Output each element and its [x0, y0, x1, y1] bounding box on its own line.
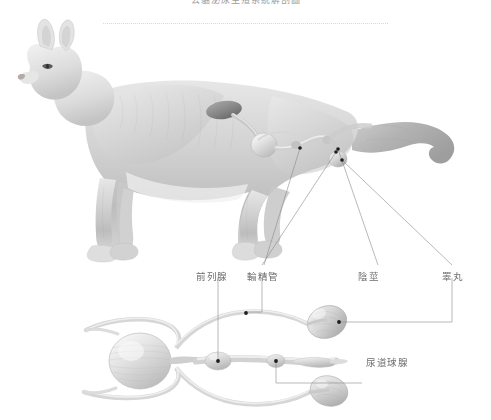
anchor-vas-detail: [244, 311, 248, 315]
anatomy-figure: 公貓泌尿生殖系統解剖圖: [0, 0, 491, 420]
illustration-canvas: [0, 0, 491, 420]
detail-ureter-upper: [86, 329, 118, 334]
label-penis: 陰莖: [358, 269, 379, 283]
anchor-prostate: [298, 146, 302, 150]
cat-front-leg-far: [117, 182, 136, 250]
anchor-testis: [340, 158, 344, 162]
anchor-penis: [336, 147, 340, 151]
organs-detail-illustration: [84, 301, 351, 411]
leader-vas-detail: [246, 278, 262, 312]
leader-testis-detail: [340, 278, 452, 322]
leader-penis: [338, 149, 378, 265]
detail-bladder-highlight: [118, 341, 144, 361]
label-bulbourethral-gland: 尿道球腺: [366, 355, 408, 369]
detail-testis-lower-highlight: [316, 380, 328, 389]
detail-bladder: [109, 333, 171, 389]
anchor-bulbourethral: [274, 359, 278, 363]
anchor-prostate-detail: [216, 359, 220, 363]
detail-penis-tip: [330, 359, 348, 364]
label-testis: 睪丸: [442, 269, 463, 283]
cat-illustration: [18, 19, 455, 262]
anchor-vas: [334, 150, 338, 154]
anchor-testis-detail: [337, 320, 341, 324]
leader-testis: [342, 160, 452, 265]
label-prostate: 前列腺: [196, 269, 228, 283]
cat-eye-pupil: [46, 64, 49, 68]
label-vas-deferens: 輸精管: [247, 269, 279, 283]
detail-ureter-lower: [84, 388, 116, 393]
cat-front-paw-far: [110, 243, 138, 260]
